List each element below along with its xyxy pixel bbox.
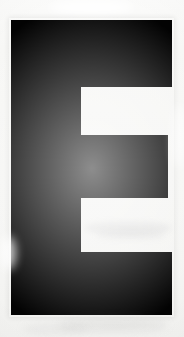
image-canvas: Capital letter E (0, 0, 184, 337)
letter-e-glyph: Capital letter E (0, 0, 184, 337)
glyph-container: Capital letter E (0, 0, 184, 337)
letter-e-path (11, 20, 172, 315)
